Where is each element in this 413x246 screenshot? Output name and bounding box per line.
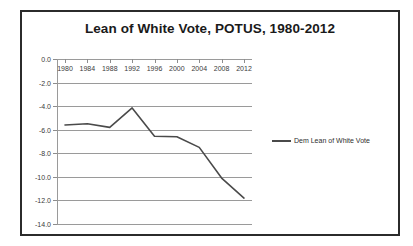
chart-title: Lean of White Vote, POTUS, 1980-2012 [22, 21, 398, 36]
y-axis-tick-label: -14.0 [35, 221, 51, 228]
y-axis-tick-label: -10.0 [35, 173, 51, 180]
legend-item-label: Dem Lean of White Vote [294, 137, 370, 144]
gridline [57, 224, 252, 225]
series-line-dem-lean-of-white-vote [57, 59, 252, 224]
y-axis-tick-label: -6.0 [39, 126, 51, 133]
chart-screenshot: Lean of White Vote, POTUS, 1980-2012 0.0… [0, 0, 413, 246]
chart-frame: Lean of White Vote, POTUS, 1980-2012 0.0… [20, 10, 400, 236]
y-axis-tick-label: -2.0 [39, 79, 51, 86]
y-axis-tick-label: -4.0 [39, 103, 51, 110]
y-axis-tick-label: 0.0 [41, 56, 51, 63]
y-axis-tick [53, 224, 57, 225]
plot-area: 0.0-2.0-4.0-6.0-8.0-10.0-12.0-14.0 19801… [57, 59, 252, 224]
series-line [65, 108, 244, 198]
y-axis-tick-label: -8.0 [39, 150, 51, 157]
chart-legend: Dem Lean of White Vote [272, 137, 370, 144]
legend-line-swatch [272, 140, 291, 142]
y-axis-tick-label: -12.0 [35, 197, 51, 204]
